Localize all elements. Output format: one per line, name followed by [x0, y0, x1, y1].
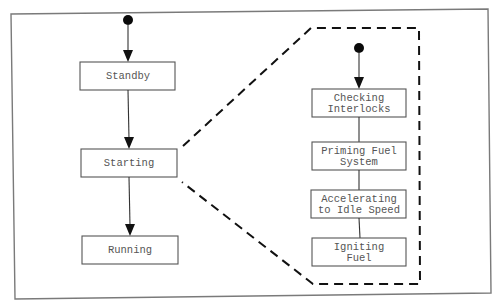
state-label-line2: to Idle Speed — [318, 204, 400, 216]
initial-state-dot — [123, 15, 133, 25]
state-running[interactable]: Running — [82, 236, 178, 264]
substate-priming-fuel-system[interactable]: Priming Fuel System — [312, 142, 406, 170]
state-label-line2: Interlocks — [327, 103, 390, 115]
state-label-line2: System — [340, 156, 378, 168]
substate-checking-interlocks[interactable]: Checking Interlocks — [312, 89, 406, 117]
substate-initial-dot — [354, 43, 364, 53]
state-label: Standby — [106, 70, 150, 82]
state-label-line2: Fuel — [346, 252, 371, 264]
substate-igniting-fuel[interactable]: Igniting Fuel — [312, 238, 406, 266]
state-label: Running — [108, 244, 152, 256]
state-standby[interactable]: Standby — [80, 62, 175, 90]
substate-accelerating[interactable]: Accelerating to Idle Speed — [311, 190, 406, 218]
state-diagram: Standby Starting Running Checking Interl… — [0, 0, 499, 305]
state-label: Starting — [104, 157, 154, 169]
state-starting[interactable]: Starting — [81, 149, 177, 177]
